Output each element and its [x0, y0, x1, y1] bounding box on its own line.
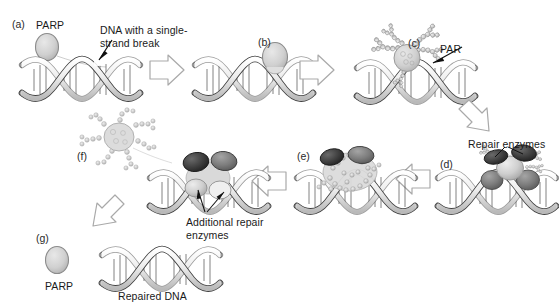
- panel-b-group: [193, 43, 316, 100]
- parp-leader-line-a: [57, 56, 106, 67]
- repair-enzyme-e-1: [318, 146, 345, 167]
- released-parp-par-f: [80, 108, 156, 170]
- panel-label-c: (c): [408, 37, 420, 49]
- repair-enzyme-f-3: [185, 179, 207, 197]
- panel-label-g: (g): [36, 232, 49, 244]
- par-chains-c: [371, 23, 444, 88]
- repair-enzyme-f-2: [210, 150, 238, 172]
- panel-label-e: (e): [297, 150, 310, 162]
- par-complex-e: [323, 153, 377, 191]
- repaired-dna-label: Repaired DNA: [118, 290, 187, 303]
- parp-protein-g: [46, 247, 69, 274]
- panel-d-group: [436, 143, 559, 212]
- arrow-b-to-c-shape: [300, 55, 334, 85]
- par-chains-e: [317, 153, 381, 193]
- arrow-a-to-b-shape: [150, 55, 184, 85]
- parp-protein-f: [104, 123, 134, 151]
- panel-c-group: [355, 23, 478, 102]
- repair-enzyme-e-2: [347, 145, 375, 165]
- panel-label-a: (a): [12, 18, 25, 30]
- ssb-gap-a: [94, 57, 101, 66]
- panel-e-group: [295, 145, 418, 212]
- par-label: PAR: [440, 43, 461, 56]
- arrow-d-to-e-shape: [396, 164, 430, 194]
- repair-enzymes-label: Repair enzymes: [468, 138, 545, 151]
- parp-protein-a: [36, 34, 59, 61]
- additional-enzymes-leader-lines: [198, 190, 224, 212]
- repair-enzyme-d-3: [481, 171, 503, 190]
- arrow-c-to-d-shape: [459, 100, 489, 131]
- panel-f-group: [80, 108, 270, 212]
- parp-label-top: PARP: [36, 19, 64, 32]
- repair-enzyme-f-1: [182, 150, 211, 173]
- parp-dna-repair-figure: (a) (b) (c) (d) (e) (f) (g) PARP DNA wit…: [0, 0, 559, 308]
- arrow-f-to-g-shape: [93, 195, 124, 226]
- panel-label-b: (b): [258, 36, 271, 48]
- parp-label-bottom: PARP: [45, 280, 73, 293]
- additional-repair-enzymes-label: Additional repair enzymes: [186, 216, 264, 241]
- repair-complex-f-core: [186, 162, 230, 194]
- repair-enzyme-f-4: [209, 181, 231, 199]
- panel-label-d: (d): [440, 158, 453, 170]
- ssb-label: DNA with a single- strand break: [100, 24, 188, 49]
- arrow-e-to-f-shape: [252, 166, 286, 196]
- panel-label-f: (f): [77, 150, 87, 162]
- repair-enzyme-d-4: [517, 170, 540, 190]
- parp-protein-d: [497, 156, 524, 180]
